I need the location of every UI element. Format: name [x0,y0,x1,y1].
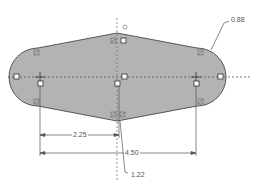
dimension-1-22-leader[interactable] [120,121,128,173]
sketch-canvas[interactable] [0,0,261,190]
point-center-upper [122,74,127,79]
dimension-label-1-22[interactable]: 1.22 [130,171,146,179]
point-left-end [14,74,19,79]
dimension-label-2-25[interactable]: 2.25 [72,131,88,139]
radius-leader[interactable] [211,21,229,50]
dimension-label-4-50[interactable]: 4.50 [124,149,140,157]
point-right-end [218,74,223,79]
point-right-center [194,81,199,86]
midpoint-icon [123,25,127,29]
point-top [121,38,126,43]
dimension-4-50[interactable] [40,152,196,155]
radius-dimension-label[interactable]: 0.88 [230,16,246,24]
point-center [115,81,120,86]
point-left-center [38,81,43,86]
